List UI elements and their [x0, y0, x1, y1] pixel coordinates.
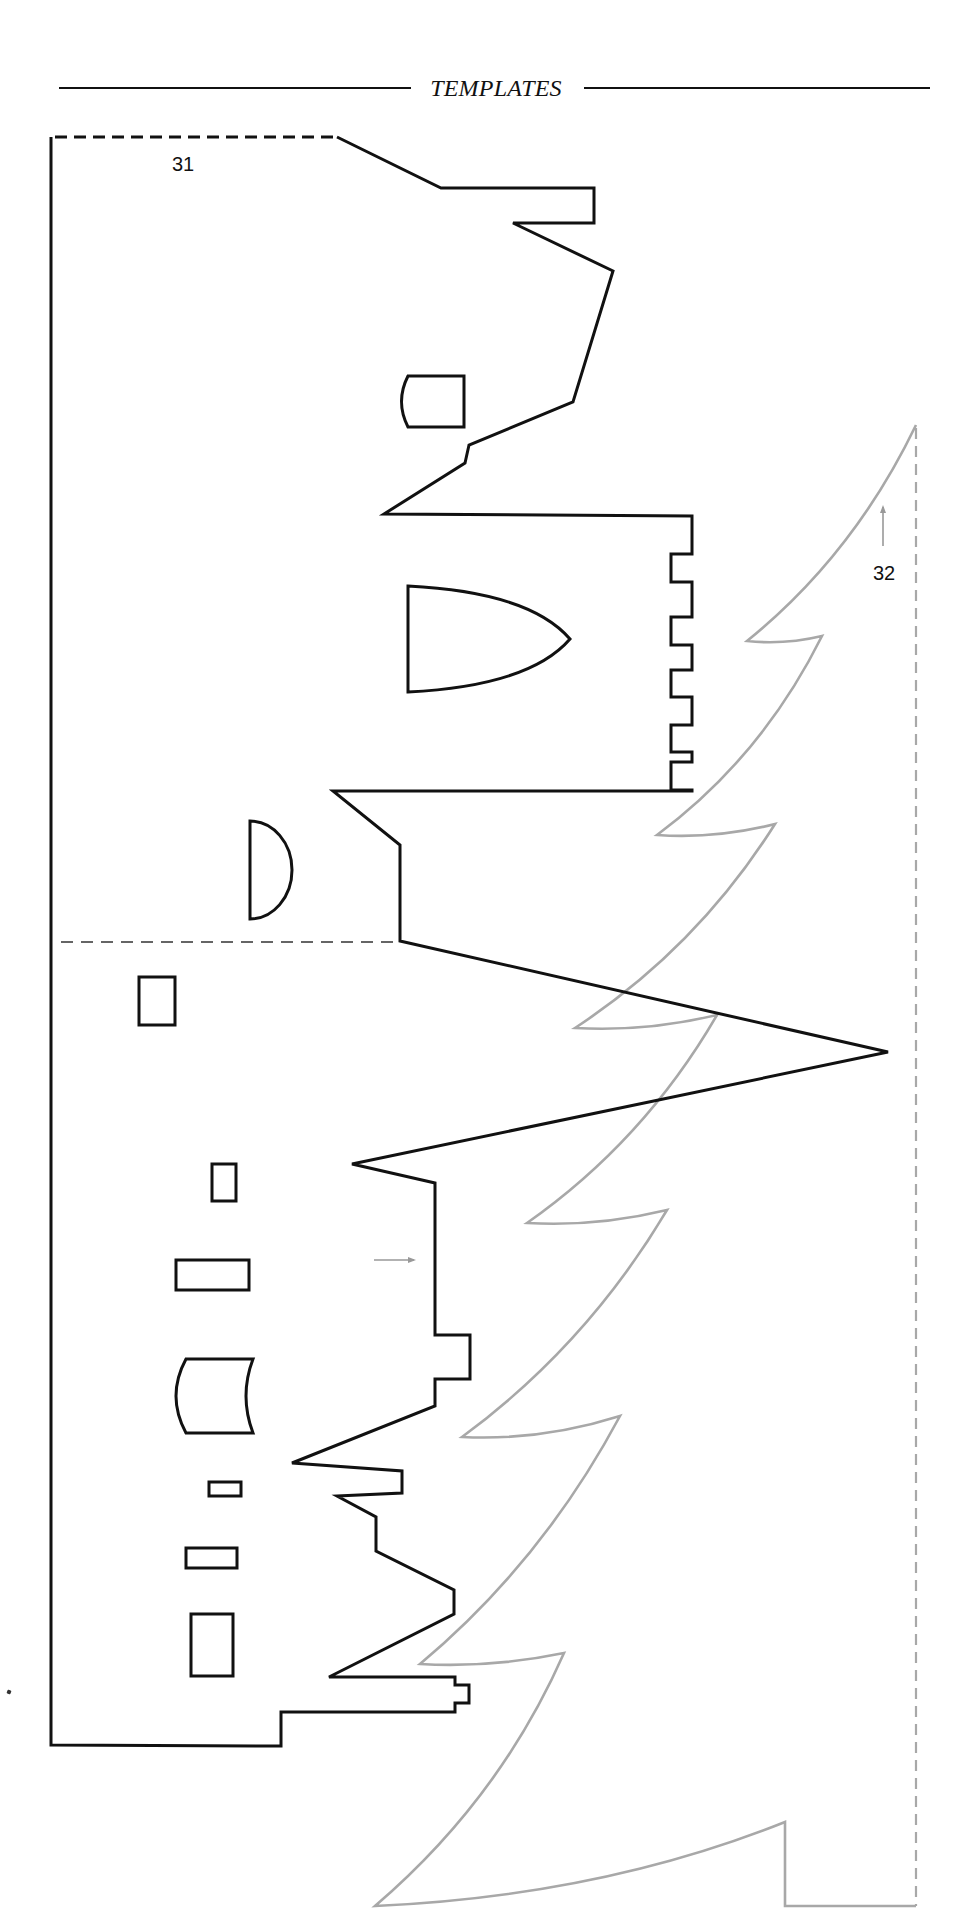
window-gothic: [408, 586, 570, 692]
window-rect-5: [186, 1548, 237, 1568]
window-arched-upper: [402, 376, 465, 427]
template-31-castle: [51, 137, 888, 1746]
window-curved-sides: [176, 1359, 253, 1433]
window-rect-6: [191, 1614, 233, 1676]
template-number-32: 32: [873, 562, 895, 584]
template-artwork: [0, 0, 980, 1908]
window-half-moon: [250, 821, 292, 919]
castle-outline: [51, 137, 888, 1746]
window-rect-4: [209, 1482, 241, 1496]
template-number-31: 31: [172, 153, 194, 175]
castle-windows: [139, 376, 570, 1676]
window-rect-3: [176, 1260, 249, 1290]
window-rect-1: [139, 977, 175, 1025]
window-rect-2: [212, 1164, 236, 1201]
